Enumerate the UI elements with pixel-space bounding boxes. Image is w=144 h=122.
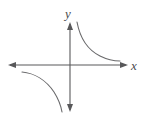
- y-axis-label: y: [63, 6, 71, 21]
- hyperbola-branch-quadrant-1: [77, 22, 120, 61]
- coordinate-plane-svg: x y: [0, 0, 144, 122]
- y-axis-bottom-arrowhead-icon: [67, 104, 73, 112]
- x-axis-group: x: [8, 58, 137, 73]
- hyperbola-branch-quadrant-3: [22, 72, 62, 112]
- y-axis-top-arrowhead-icon: [67, 22, 73, 30]
- hyperbola-curve-group: [22, 22, 120, 112]
- y-axis-group: y: [63, 6, 73, 112]
- x-axis-label: x: [130, 58, 137, 73]
- hyperbola-figure: x y: [0, 0, 144, 122]
- x-axis-right-arrowhead-icon: [120, 62, 128, 68]
- x-axis-left-arrowhead-icon: [8, 62, 16, 68]
